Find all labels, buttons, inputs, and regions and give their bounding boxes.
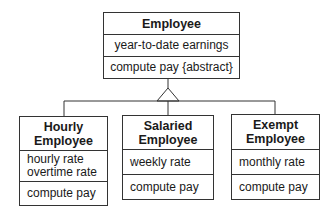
class-name-line2: Employee	[246, 132, 305, 146]
attribute: weekly rate	[130, 156, 213, 169]
inheritance-triangle-icon	[157, 88, 179, 101]
class-name-line2: Employee	[34, 134, 93, 148]
class-employee: Employee year-to-date earnings compute p…	[103, 12, 240, 79]
operation: compute pay	[130, 181, 213, 194]
class-name-line1: Exempt	[253, 118, 298, 132]
class-name-line2: Employee	[138, 133, 197, 147]
class-attributes: monthly rate	[232, 150, 319, 175]
operation: compute pay	[239, 181, 319, 194]
attribute: monthly rate	[239, 156, 319, 169]
class-name: Employee	[104, 13, 239, 35]
class-operations: compute pay	[123, 175, 213, 199]
class-name: Salaried Employee	[123, 116, 213, 150]
class-name-line1: Hourly	[44, 120, 84, 134]
class-name: Exempt Employee	[232, 115, 319, 150]
class-operations: compute pay {abstract}	[104, 57, 239, 78]
attribute: year-to-date earnings	[114, 39, 228, 52]
class-attributes: weekly rate	[123, 150, 213, 175]
class-attributes: year-to-date earnings	[104, 35, 239, 57]
class-salaried-employee: Salaried Employee weekly rate compute pa…	[122, 115, 214, 200]
class-operations: compute pay	[232, 175, 319, 199]
class-hourly-employee: Hourly Employee hourly rate overtime rat…	[19, 116, 108, 206]
class-name-text: Employee	[142, 17, 201, 31]
operation: compute pay {abstract}	[110, 61, 233, 74]
class-name: Hourly Employee	[20, 117, 107, 151]
class-exempt-employee: Exempt Employee monthly rate compute pay	[231, 114, 320, 200]
operation: compute pay	[27, 187, 107, 200]
attribute: overtime rate	[27, 166, 107, 179]
class-name-line1: Salaried	[144, 119, 193, 133]
class-operations: compute pay	[20, 182, 107, 205]
class-attributes: hourly rate overtime rate	[20, 151, 107, 182]
